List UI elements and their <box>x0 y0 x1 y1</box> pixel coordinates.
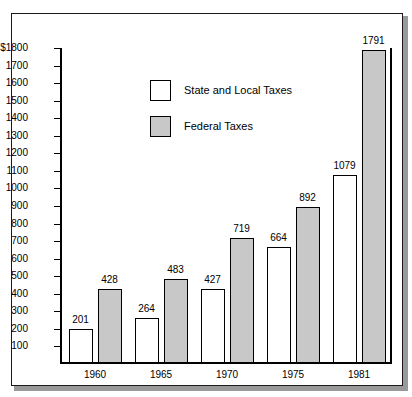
y-axis-tick-label: 700 <box>11 236 28 246</box>
plot-area: 20142826448342771966489210791791 State a… <box>62 48 392 364</box>
x-axis-tick-label: 1960 <box>65 370 125 380</box>
x-axis-tick-label: 1981 <box>329 370 389 380</box>
y-axis-tick-label: 1400 <box>6 113 28 123</box>
chart-frame: $180017001600150014001300120011001000900… <box>11 13 403 386</box>
y-axis-tick-label: 1300 <box>6 131 28 141</box>
bar-1970-state-local <box>201 289 225 364</box>
bar-1965-federal <box>164 279 188 364</box>
bar-value-label: 1079 <box>325 161 365 171</box>
y-axis-tick <box>54 329 61 330</box>
y-axis-tick <box>54 66 61 67</box>
y-axis-tick <box>54 188 61 189</box>
plot-right-edge <box>390 48 392 364</box>
y-axis-tick <box>54 136 61 137</box>
legend-swatch-federal <box>150 116 171 137</box>
y-axis-tick-label: 400 <box>11 289 28 299</box>
y-axis-tick-label: 1000 <box>6 183 28 193</box>
x-axis-baseline <box>62 362 392 364</box>
y-axis-tick-label: 600 <box>11 254 28 264</box>
y-axis-tick-label: 1500 <box>6 96 28 106</box>
y-axis-tick-label: 1100 <box>6 166 28 176</box>
y-axis-tick <box>54 224 61 225</box>
bar-value-label: 427 <box>193 275 233 285</box>
legend-label: State and Local Taxes <box>184 85 292 96</box>
y-axis-tick <box>54 241 61 242</box>
y-axis-tick <box>54 48 61 49</box>
y-axis-tick <box>54 276 61 277</box>
bar-value-label: 483 <box>156 265 196 275</box>
bar-1975-state-local <box>267 247 291 364</box>
bar-value-label: 264 <box>127 304 167 314</box>
y-axis-tick-label: 500 <box>11 271 28 281</box>
y-axis-tick-label: 900 <box>11 201 28 211</box>
y-axis-tick <box>54 83 61 84</box>
legend-swatch-state-local <box>150 80 171 101</box>
bar-value-label: 201 <box>61 315 101 325</box>
bar-value-label: 428 <box>90 275 130 285</box>
bar-1981-state-local <box>333 175 357 364</box>
y-axis-tick-label: 1600 <box>6 78 28 88</box>
bar-1960-state-local <box>69 329 93 364</box>
y-axis-tick-label: $1800 <box>0 43 28 53</box>
y-axis-tick-label: 100 <box>11 341 28 351</box>
y-axis-tick-label: 1200 <box>6 148 28 158</box>
legend-label: Federal Taxes <box>184 121 253 132</box>
bar-value-label: 719 <box>222 224 262 234</box>
bar-1970-federal <box>230 238 254 364</box>
bar-1960-federal <box>98 289 122 364</box>
y-axis-tick <box>54 346 61 347</box>
y-axis-tick-label: 1700 <box>6 61 28 71</box>
bar-value-label: 664 <box>259 233 299 243</box>
bar-1981-federal <box>362 50 386 364</box>
y-axis-tick <box>54 294 61 295</box>
y-axis-tick-label: 200 <box>11 324 28 334</box>
x-axis-tick-label: 1970 <box>197 370 257 380</box>
y-axis-tick <box>54 153 61 154</box>
y-axis-tick <box>54 206 61 207</box>
x-axis-tick-label: 1975 <box>263 370 323 380</box>
y-axis-tick <box>54 118 61 119</box>
y-axis-tick <box>54 311 61 312</box>
y-axis-tick <box>54 259 61 260</box>
bar-1965-state-local <box>135 318 159 364</box>
bar-1975-federal <box>296 207 320 364</box>
x-axis-tick-label: 1965 <box>131 370 191 380</box>
y-axis-tick <box>54 171 61 172</box>
chart-figure: $180017001600150014001300120011001000900… <box>0 0 412 397</box>
y-axis-tick-label: 800 <box>11 219 28 229</box>
bar-value-label: 1791 <box>354 36 394 46</box>
y-axis-tick <box>54 101 61 102</box>
bar-value-label: 892 <box>288 193 328 203</box>
y-axis-tick-label: 300 <box>11 306 28 316</box>
